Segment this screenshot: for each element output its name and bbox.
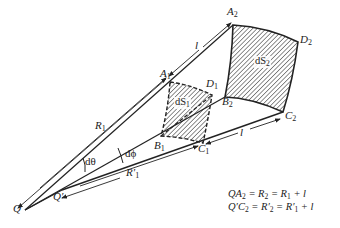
- area-ds2: [225, 25, 298, 112]
- label-r1-prime: R′1: [126, 167, 139, 180]
- label-c1: C1: [198, 143, 209, 156]
- label-ds1: dS1: [174, 97, 191, 109]
- label-d1: D1: [206, 78, 218, 91]
- label-r1: R1: [95, 120, 106, 133]
- label-l-upper: l: [195, 40, 198, 51]
- label-b1: B1: [154, 140, 165, 153]
- l-lower-arrow: [206, 133, 238, 144]
- label-a2: A2: [227, 6, 238, 19]
- label-dtheta: dθ: [85, 156, 96, 167]
- r1-prime-arrow: [62, 178, 120, 198]
- label-q-prime: Q′: [53, 191, 63, 202]
- label-c2: C2: [285, 110, 296, 123]
- label-ds2: dS2: [254, 56, 271, 68]
- equation-2: Q′C2 = R′2 = R′1 + l: [228, 201, 314, 216]
- label-q: Q: [13, 203, 21, 214]
- label-d2: D2: [300, 34, 312, 47]
- label-l-lower: l: [240, 127, 243, 138]
- area-ds1: [161, 82, 212, 143]
- label-dphi: dϕ: [125, 148, 136, 159]
- label-b2: B2: [222, 96, 233, 109]
- l-upper-arrow: [169, 50, 199, 76]
- label-a1: A1: [160, 68, 171, 81]
